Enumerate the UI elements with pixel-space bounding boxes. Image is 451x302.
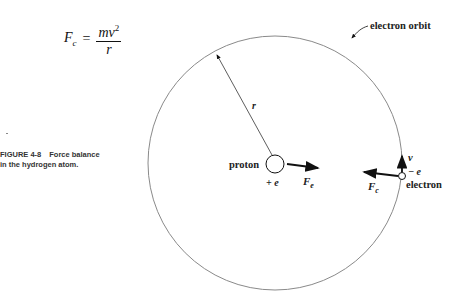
electric-force-arrow xyxy=(287,164,318,168)
centripetal-force-label: Fc xyxy=(367,180,379,195)
electric-force-label: Fe xyxy=(302,175,314,190)
hydrogen-atom-diagram: r electron orbit proton + e Fe v Fc − e … xyxy=(0,0,451,302)
orbit-label-leader xyxy=(352,26,368,38)
centripetal-force-arrow xyxy=(364,172,398,176)
velocity-label: v xyxy=(408,152,413,163)
proton-circle xyxy=(266,155,284,173)
radius-label: r xyxy=(252,100,256,111)
proton-charge: + e xyxy=(266,177,279,188)
proton-label: proton xyxy=(229,159,259,170)
radius-arrow xyxy=(217,55,272,155)
electron-circle xyxy=(399,173,406,180)
electron-charge: − e xyxy=(408,166,422,177)
orbit-label: electron orbit xyxy=(370,20,431,31)
electron-label: electron xyxy=(406,179,442,190)
